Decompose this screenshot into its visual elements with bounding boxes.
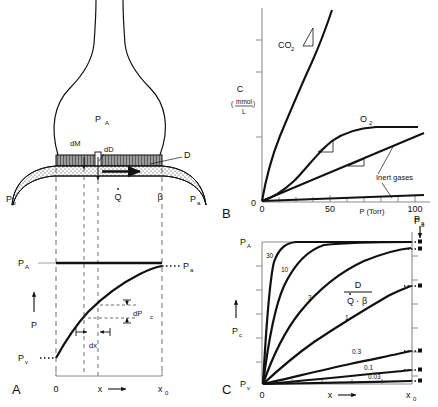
panelC-x-axis-label: x [328,390,333,400]
alveolar-pressure-label: P A [95,114,109,126]
panelC-param-den-q: Q [347,296,354,306]
panelB-xtick-label-50: 50 [325,204,335,214]
dPc-sub: c [150,314,153,320]
alveolar-pressure-text: P [95,114,101,124]
anatomy-diagram: P A dM dD D Q β P [6,0,206,206]
panelC-parameter-label: D Q · β [344,280,372,306]
panelA-PA-sub: A [25,264,29,270]
panel-C: 30 10 3 1 0.3 0.1 0.03 P a [222,214,425,402]
panelA-x-axis-label: x [98,384,103,394]
panelB-inert-label: Inert gases [376,173,413,182]
panelB-curve-o2 [262,127,418,201]
panelB-x-axis-label: P (Torr) [360,207,385,216]
panelA-x-end-text: x [158,384,163,394]
panelC-Pv-sub: v [247,385,250,391]
dPc-label: dP [133,309,142,318]
panelB-units-num: mmol [236,98,252,105]
panelA-PA-label: P A [18,258,29,270]
panelB-y-axis-label: C [237,84,244,94]
arterial-sub: a [197,200,201,206]
panelC-PA-label: P A [240,237,251,249]
panelC-x-end-label: x 0 [406,390,417,402]
panel-B: 0 0 50 100 P (Torr) P a C ( mmol L [222,8,430,228]
blood-flow-label: Q [114,188,121,202]
panel-C-id: C [222,382,231,397]
panelC-curve-0.3 [263,351,411,384]
panelA-x-tick-0: 0 [53,384,58,394]
alveolus-outline-right [123,0,165,155]
panelB-curve-co2 [262,10,332,201]
panelC-curve-10 [263,242,411,384]
capillary-lumen-border [13,176,206,205]
panelC-Pv-text: P [240,379,246,389]
panelC-q-dot [349,293,351,295]
panelC-Pc-label: P c [232,326,242,338]
D-label: D [184,150,191,160]
panelC-curve-30 [263,242,411,384]
panelC-Pa-text: P [414,214,420,224]
panelA-Pv-label: P v [18,353,28,365]
arterial-text: P [190,194,196,204]
venous-sub: v [13,200,16,206]
panelC-x-tick-0: 0 [259,390,264,400]
figure-svg: P A dM dD D Q β P [0,0,438,407]
panelC-Pc-text: P [232,326,238,336]
panelC-param-num: D [355,280,362,290]
panelC-PA-sub: A [247,243,251,249]
dD-label: dD [104,145,114,154]
panelC-marker-3 [418,284,422,288]
panelC-right-ticks [412,256,418,376]
panelB-o2-slope-triangle [318,140,333,152]
panelC-Pc-sub: c [239,332,242,338]
panelA-x-end-label: x 0 [158,384,169,396]
panelA-differential-construction: dP c dx [76,300,153,350]
panelA-Pa-text: P [183,261,189,271]
panelC-PA-text: P [240,237,246,247]
alveolar-pressure-sub: A [105,120,109,126]
panelC-param-den-beta: β [362,296,367,306]
panelB-o2-sub: 2 [369,120,373,126]
dM-label: dM [70,139,80,148]
panelB-units-den: L [242,108,246,115]
panelB-co2-sub: 2 [291,46,295,52]
arterial-pressure-label: P a [190,194,201,206]
panelA-Pv-sub: v [25,359,28,365]
panelB-co2-slope-triangle [303,28,313,46]
panelB-curve-inert-soluble [262,133,424,201]
panelB-xtick-label-0: 0 [259,204,264,214]
q-dot [117,188,119,190]
panelC-label-3: 3 [308,294,312,301]
panelC-Pv-label: P v [240,379,250,391]
panelC-label-03: 0.3 [352,348,361,355]
panelB-xtick-label-100: 100 [407,204,422,214]
panelA-PA-text: P [18,258,24,268]
venous-text: P [6,194,12,204]
panelB-co2-text: CO [278,40,292,50]
panelC-label-003: 0.03 [368,373,381,380]
panelA-Pa-label: P a [183,261,194,273]
panelC-label-30: 30 [266,252,274,259]
figure-root: P A dM dD D Q β P [0,0,438,407]
panel-A: dP c dx P a P A P v P 0 [12,258,194,397]
membrane-D [56,155,162,166]
panelC-x-end-text: x [406,390,411,400]
panelC-param-den-dot: · [356,296,359,306]
panelC-endpoint-markers [404,240,422,383]
panelA-P-label: P [31,320,37,330]
panelA-Pa-sub: a [190,267,194,273]
panelA-Pv-text: P [18,353,24,363]
panelA-Pc-curve [56,266,162,358]
panelC-label-01: 0.1 [364,364,373,371]
panelB-o2-text: O [360,114,367,124]
panelC-marker-top [418,240,422,244]
panelA-x-end-sub: 0 [165,390,169,396]
panelC-label-1: 1 [345,314,349,321]
panelC-Pa-sub: a [421,220,425,226]
dx-label: dx [89,341,97,350]
panelC-label-10: 10 [281,266,289,273]
panelB-y-tick-0: 0 [251,198,256,208]
panelB-y-ticks [256,40,262,137]
panelC-x-end-sub: 0 [413,396,417,402]
panelC-marker-5 [418,368,422,372]
alveolus-outline [54,0,96,155]
